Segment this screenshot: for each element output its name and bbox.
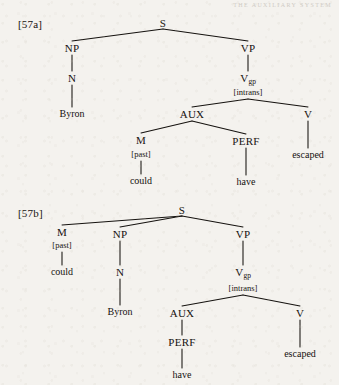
tree-node-np: NP [65,43,80,54]
node-base-label: V [240,72,248,84]
tree-feature-m2feat: [past] [52,241,71,250]
tree-node-np2: NP [113,229,128,240]
tree-node-n: N [68,73,76,84]
tree-terminal-could2: could [51,267,73,277]
tree-node-s: S [160,18,166,29]
page-canvas: THE AUXILIARY SYSTEM [57a]SNPVPNVgp[intr… [0,0,339,385]
tree-edge [182,216,243,227]
tree-node-vp2: VP [236,229,251,240]
example-label: [57b] [18,208,43,219]
tree-edge [248,99,308,107]
tree-feature-vgp2feat: [intrans] [229,284,258,293]
example-label: [57a] [18,19,42,30]
tree-node-v: V [304,109,312,120]
tree-terminal-escaped2: escaped [284,349,316,359]
tree-node-vgp2: Vgp [235,267,251,279]
tree-node-n2: N [116,267,124,278]
tree-terminal-escaped: escaped [292,150,324,160]
tree-edge [72,29,163,41]
tree-node-aux2: AUX [170,308,195,319]
tree-terminal-have2: have [173,370,192,380]
tree-node-vp: VP [241,43,256,54]
tree-edge [120,216,182,227]
tree-edge [192,121,246,134]
node-base-label: V [235,266,243,278]
tree-node-s2: S [179,205,185,216]
tree-edge [62,216,182,225]
tree-edge-layer [0,0,339,385]
tree-node-m: M [136,135,146,146]
tree-node-m2: M [57,227,67,238]
tree-edge [192,99,248,107]
tree-terminal-byron: Byron [60,109,85,119]
tree-terminal-have: have [237,177,256,187]
tree-edge [141,121,192,133]
tree-feature-mfeat: [past] [131,150,150,159]
tree-edge [182,295,243,306]
tree-node-perf: PERF [232,136,260,147]
tree-edge [243,295,300,306]
tree-node-vgp: Vgp [240,73,256,85]
node-subscript-label: gp [248,77,256,86]
node-subscript-label: gp [243,271,251,280]
tree-node-aux: AUX [180,109,205,120]
tree-terminal-byron2: Byron [108,307,133,317]
tree-terminal-could: could [130,176,152,186]
tree-node-perf2: PERF [168,337,196,348]
tree-edge [163,29,248,41]
tree-feature-vgpfeat: [intrans] [234,88,263,97]
tree-node-v2: V [296,308,304,319]
